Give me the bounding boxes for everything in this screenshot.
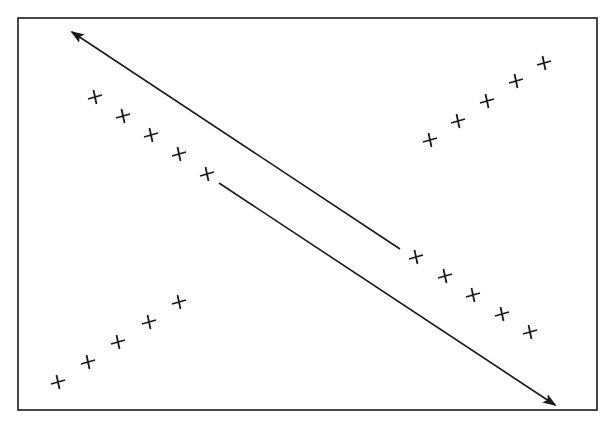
cross-mark-icon: [537, 56, 551, 70]
cross-mark-icon: [451, 114, 465, 128]
diagram-figure: [0, 0, 603, 428]
cross-mark-icon: [172, 147, 186, 161]
upper-left-row: [88, 90, 214, 181]
lower-left-row: [51, 295, 186, 389]
cross-mark-icon: [172, 295, 186, 309]
lower-arrow-pointing-down-right-icon: [219, 183, 555, 405]
cross-mark-icon: [144, 128, 158, 142]
cross-mark-icon: [523, 325, 537, 339]
cross-mark-icon: [466, 288, 480, 302]
upper-arrow-pointing-up-left-icon: [72, 32, 400, 249]
crosses-group: [51, 56, 551, 389]
cross-mark-icon: [423, 133, 437, 147]
frame-border: [18, 18, 597, 410]
cross-mark-icon: [409, 250, 423, 264]
diagram-canvas: [0, 0, 603, 428]
cross-mark-icon: [81, 355, 95, 369]
arrows-group: [72, 32, 555, 405]
cross-mark-icon: [88, 90, 102, 104]
cross-mark-icon: [116, 109, 130, 123]
cross-mark-icon: [51, 375, 65, 389]
lower-right-row: [409, 250, 537, 339]
cross-mark-icon: [480, 94, 494, 108]
cross-mark-icon: [200, 167, 214, 181]
cross-mark-icon: [509, 74, 523, 88]
cross-mark-icon: [438, 269, 452, 283]
upper-right-row: [423, 56, 551, 147]
cross-mark-icon: [111, 335, 125, 349]
cross-mark-icon: [495, 307, 509, 321]
cross-mark-icon: [142, 315, 156, 329]
